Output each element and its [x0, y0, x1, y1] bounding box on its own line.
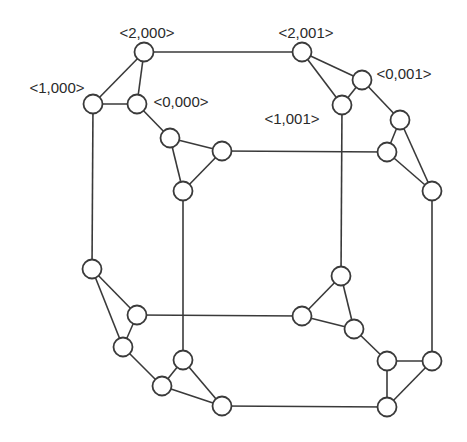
node-nG — [83, 260, 102, 279]
label-1001: <1,001> — [264, 110, 319, 127]
node-nO — [345, 320, 364, 339]
edge-n1001-nM — [341, 105, 342, 276]
node-n2000 — [135, 43, 154, 62]
node-nB — [213, 142, 232, 161]
node-n0001 — [353, 71, 372, 90]
node-nH — [128, 306, 147, 325]
node-nN — [293, 307, 312, 326]
node-nK — [153, 377, 172, 396]
node-nJ — [174, 351, 193, 370]
edge-nL-nR — [222, 406, 387, 407]
edge-n1000-nG — [92, 104, 93, 269]
node-nD — [391, 111, 410, 130]
label-0001: <0,001> — [376, 65, 431, 82]
edge-nG-nI — [92, 269, 123, 347]
edge-nB-nE — [222, 151, 387, 152]
node-nI — [114, 338, 133, 357]
node-nP — [378, 352, 397, 371]
edge-nH-nN — [137, 315, 302, 316]
node-n0000 — [128, 95, 147, 114]
node-nQ — [423, 352, 442, 371]
node-nC — [174, 182, 193, 201]
label-0000: <0,000> — [153, 93, 208, 110]
node-n2001 — [293, 43, 312, 62]
node-nA — [161, 129, 180, 148]
label-2001: <2,001> — [278, 24, 333, 41]
node-nL — [213, 397, 232, 416]
node-nR — [378, 398, 397, 417]
graph-diagram: <2,000> <1,000> <0,000> <2,001> <0,001> … — [0, 0, 467, 442]
node-nM — [332, 267, 351, 286]
node-n1001 — [333, 96, 352, 115]
label-1000: <1,000> — [29, 79, 84, 96]
node-n1000 — [84, 95, 103, 114]
node-nE — [378, 143, 397, 162]
label-2000: <2,000> — [119, 24, 174, 41]
node-nF — [423, 182, 442, 201]
edge-nD-nF — [400, 120, 432, 191]
